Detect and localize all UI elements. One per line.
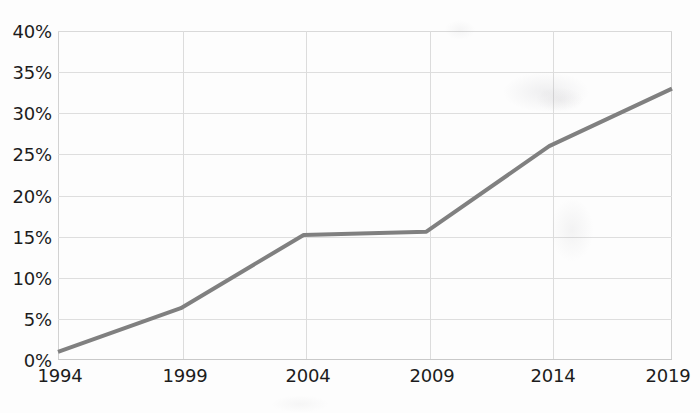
x-tick-label-2009: 2009 — [409, 365, 454, 386]
y-tick-label-15: 15% — [0, 227, 52, 248]
x-tick-label-2004: 2004 — [285, 365, 330, 386]
y-tick-label-10: 10% — [0, 268, 52, 289]
y-tick-label-40: 40% — [0, 21, 52, 42]
x-axis-line — [58, 359, 672, 360]
y-axis-labels: 40% 35% 30% 25% 20% 15% 10% 5% 0% — [0, 31, 52, 360]
plot-top-edge — [58, 31, 672, 32]
gridline-vertical-1999 — [183, 31, 184, 360]
x-tick-label-1999: 1999 — [162, 365, 207, 386]
x-tick-label-2019: 2019 — [645, 365, 690, 386]
x-axis-labels: 1994 1999 2004 2009 2014 2019 — [0, 365, 700, 399]
gridline-horizontal-5 — [58, 319, 672, 320]
gridline-vertical-2014 — [553, 31, 554, 360]
gridline-horizontal-10 — [58, 278, 672, 279]
gridline-horizontal-25 — [58, 154, 672, 155]
y-tick-label-5: 5% — [0, 309, 52, 330]
gridline-vertical-2009 — [430, 31, 431, 360]
y-tick-label-35: 35% — [0, 62, 52, 83]
chart-screenshot: 40% 35% 30% 25% 20% 15% 10% 5% 0% 1994 1… — [0, 0, 700, 413]
y-tick-label-30: 30% — [0, 103, 52, 124]
gridline-horizontal-35 — [58, 72, 672, 73]
gridline-horizontal-20 — [58, 196, 672, 197]
y-tick-label-20: 20% — [0, 186, 52, 207]
x-tick-label-1994: 1994 — [37, 365, 82, 386]
gridline-vertical-2004 — [306, 31, 307, 360]
gridline-horizontal-15 — [58, 237, 672, 238]
gridline-horizontal-30 — [58, 113, 672, 114]
plot-area — [58, 31, 672, 360]
x-tick-label-2014: 2014 — [530, 365, 575, 386]
y-tick-label-25: 25% — [0, 144, 52, 165]
